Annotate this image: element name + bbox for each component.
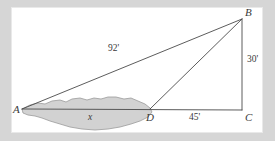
segment-db <box>150 19 242 109</box>
segment-ab <box>22 19 242 109</box>
measurement-label-dc: 45' <box>189 113 200 123</box>
measurement-label-ab: 92' <box>108 44 119 54</box>
pond-region <box>22 97 152 130</box>
figure-root: A B C D 92' 30' 45' x <box>0 0 275 141</box>
vertex-label-c: C <box>245 112 252 123</box>
vertex-label-d: D <box>146 112 154 123</box>
vertex-label-b: B <box>245 7 252 18</box>
diagram-svg <box>0 0 275 141</box>
vertex-label-a: A <box>13 104 20 115</box>
measurement-label-bc: 30' <box>247 55 258 65</box>
measurement-label-ad: x <box>88 113 92 123</box>
